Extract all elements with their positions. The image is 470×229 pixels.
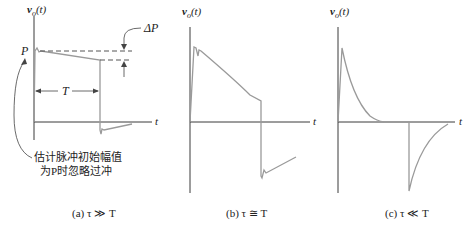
panel-b-y-axis-label: vo(t) <box>182 5 201 20</box>
panel-a-plot <box>14 16 152 158</box>
panel-a-delta-p-arrow-up-icon <box>121 61 127 67</box>
panel-c-plot <box>338 27 455 193</box>
panel-a-annotation-arrowhead-icon <box>21 58 27 65</box>
panel-a-annotation-arrow <box>14 62 32 158</box>
panel-a-caption: (a) τ ≫ T <box>72 207 116 220</box>
panel-a-p-label: P <box>21 44 28 59</box>
panel-a-y-axis-label: vo(t) <box>27 3 46 18</box>
panel-c-x-axis-label: t <box>459 115 462 127</box>
panel-a-period-label: T <box>62 84 69 99</box>
panel-b-waveform <box>190 47 296 178</box>
panel-c-waveform <box>338 48 448 191</box>
panel-a-annotation: 估计脉冲初始幅值 为P时忽略过冲 <box>34 150 122 178</box>
panel-c-y-label-arg: (t) <box>339 5 349 17</box>
panel-a-delta-p-leader <box>124 28 141 48</box>
panel-a-x-axis-label: t <box>155 115 158 127</box>
panel-b-x-axis-label: t <box>313 115 316 127</box>
panel-a-t-arrow-right-icon <box>93 89 99 94</box>
panel-a-t-arrow-left-icon <box>35 89 41 94</box>
panel-a-delta-p-label: ΔP <box>144 21 158 36</box>
panel-c-y-axis-label: vo(t) <box>330 5 349 20</box>
panel-b-plot <box>190 27 310 193</box>
panel-b-y-label-arg: (t) <box>191 5 201 17</box>
panel-a-y-label-arg: (t) <box>36 3 46 15</box>
diagram-canvas <box>0 0 470 229</box>
panel-c-caption: (c) τ ≪ T <box>385 207 429 220</box>
panel-a-delta-p-arrow-down-icon <box>121 44 127 50</box>
panel-a-annotation-line2: 为P时忽略过冲 <box>34 164 122 178</box>
panel-b-caption: (b) τ ≅ T <box>226 207 267 220</box>
panel-a-annotation-line1: 估计脉冲初始幅值 <box>34 150 122 164</box>
